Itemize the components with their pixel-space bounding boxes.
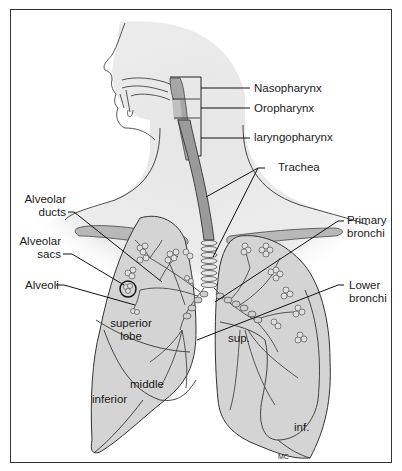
- label-oropharynx: Oropharynx: [254, 102, 314, 115]
- label-superior-lobe: superior lobe: [104, 317, 158, 343]
- label-alveolar-sacs-line2: sacs: [18, 248, 61, 261]
- label-alveolar-sacs: Alveolar sacs: [18, 235, 61, 261]
- label-lower-bronchi: Lower bronchi: [349, 279, 387, 305]
- body-silhouette: [30, 21, 372, 300]
- label-inferior-lobe: inferior: [92, 393, 127, 406]
- label-primary-bronchi: Primary bronchi: [347, 214, 387, 240]
- label-alveolar-sacs-line1: Alveolar: [18, 235, 61, 248]
- label-alveoli: Alveoli: [25, 279, 59, 292]
- label-primary-bronchi-line1: Primary: [347, 214, 387, 227]
- label-alveolar-ducts-line1: Alveolar: [22, 193, 66, 206]
- label-alveolar-ducts: Alveolar ducts: [22, 193, 66, 219]
- label-trachea: Trachea: [278, 161, 320, 174]
- label-inf-lobe-left: inf.: [294, 421, 309, 434]
- label-alveolar-ducts-line2: ducts: [22, 206, 66, 219]
- label-sup-lobe-left: sup.: [228, 332, 250, 345]
- label-nasopharynx: Nasopharynx: [254, 82, 322, 95]
- artist-signature: MC: [278, 450, 289, 463]
- label-lower-bronchi-line2: bronchi: [349, 292, 387, 305]
- label-primary-bronchi-line2: bronchi: [347, 227, 387, 240]
- label-superior-lobe-line2: lobe: [104, 330, 158, 343]
- label-superior-lobe-line1: superior: [104, 317, 158, 330]
- label-laryngopharynx: laryngopharynx: [254, 131, 333, 144]
- label-middle-lobe: middle: [130, 378, 164, 391]
- label-lower-bronchi-line1: Lower: [349, 279, 387, 292]
